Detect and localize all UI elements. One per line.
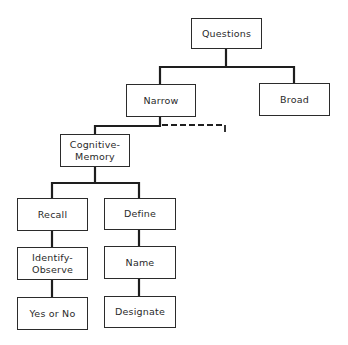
node-name: Name: [104, 246, 176, 279]
node-designate: Designate: [104, 296, 176, 328]
node-label: Name: [126, 257, 155, 269]
connector-lines: [0, 0, 348, 345]
node-label: Identify- Observe: [32, 252, 73, 276]
node-questions: Questions: [191, 18, 262, 49]
node-label: Define: [124, 208, 156, 220]
node-cognitive-memory: Cognitive- Memory: [60, 134, 130, 167]
node-label: Designate: [115, 306, 165, 318]
node-label: Cognitive- Memory: [70, 139, 120, 163]
node-define: Define: [104, 198, 176, 230]
node-identify-observe: Identify- Observe: [17, 247, 88, 280]
node-label: Narrow: [143, 95, 178, 107]
node-broad: Broad: [259, 83, 330, 116]
node-label: Broad: [280, 94, 309, 106]
node-label: Recall: [38, 209, 68, 221]
node-yes-or-no: Yes or No: [17, 297, 88, 330]
node-narrow: Narrow: [126, 84, 196, 117]
node-label: Questions: [202, 28, 251, 40]
node-label: Yes or No: [30, 308, 76, 320]
node-recall: Recall: [17, 198, 88, 231]
